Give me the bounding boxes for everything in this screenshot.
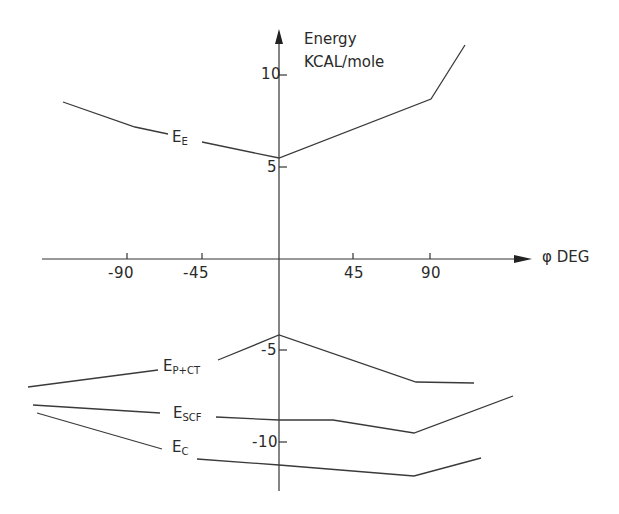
x-axis-title: φ DEG	[542, 250, 589, 265]
x-tick-label: -45	[183, 266, 209, 281]
series-ec-line	[37, 413, 162, 449]
series-ec-line	[197, 458, 481, 476]
series-ee-line	[63, 102, 168, 134]
energy-chart: Energy KCAL/mole φ DEG -90 -45 45 90 10 …	[0, 0, 619, 514]
y-axis-title-line2: KCAL/mole	[304, 55, 384, 70]
series-escf-line	[216, 396, 513, 433]
y-tick-label: -5	[261, 343, 277, 358]
series-epct-line	[28, 370, 158, 387]
series-label-sub: SCF	[182, 412, 201, 423]
series-epct-line	[218, 335, 474, 383]
series-label-ec: EC	[170, 440, 190, 457]
y-tick-label: -10	[252, 435, 278, 450]
series-label-sub: P+CT	[172, 365, 200, 376]
series-escf-line	[33, 405, 160, 413]
y-axis-arrow-icon	[275, 29, 283, 44]
x-tick-label: -90	[108, 266, 134, 281]
x-axis-arrow-icon	[514, 255, 532, 263]
series-label-ee: EE	[170, 130, 190, 147]
series-label-escf: ESCF	[171, 406, 204, 423]
x-tick-label: 90	[421, 266, 441, 281]
y-tick-label: 5	[267, 160, 277, 175]
y-axis-title-line1: Energy	[304, 32, 357, 47]
series-label-sub: E	[181, 136, 187, 147]
series-label-epct: EP+CT	[161, 359, 202, 376]
x-tick-label: 45	[344, 266, 364, 281]
y-tick-label: 10	[261, 67, 281, 82]
series-label-sub: C	[181, 446, 188, 457]
chart-canvas	[0, 0, 619, 514]
